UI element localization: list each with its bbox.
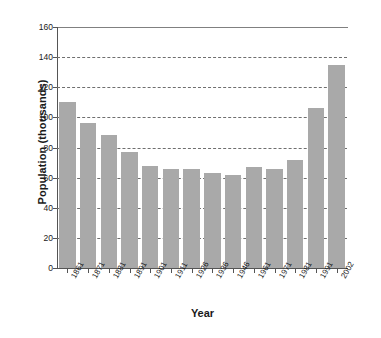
y-axis-tick-label: 100: [13, 113, 53, 122]
gridline: [57, 87, 347, 88]
y-axis-tick-label: 80: [13, 144, 53, 153]
y-axis-tick-label: 0: [13, 264, 53, 273]
y-axis-tick-label: 160: [13, 23, 53, 32]
bar: [308, 108, 325, 268]
bar: [204, 173, 221, 268]
x-axis-tick: [109, 269, 110, 273]
y-axis-tick: [53, 27, 57, 28]
y-axis-tick: [53, 87, 57, 88]
bar: [59, 102, 76, 268]
x-axis-tick: [192, 269, 193, 273]
bar: [246, 167, 263, 268]
bar: [266, 169, 283, 268]
x-axis-title: Year: [0, 307, 381, 319]
y-axis-tick: [53, 117, 57, 118]
y-axis-tick-label: 20: [13, 234, 53, 243]
y-axis-tick-label: 60: [13, 174, 53, 183]
y-axis-tick-label: 40: [13, 204, 53, 213]
x-axis-tick: [254, 269, 255, 273]
y-axis-tick: [53, 238, 57, 239]
bar: [101, 135, 118, 268]
gridline: [57, 117, 347, 118]
y-axis-tick-label: 120: [13, 83, 53, 92]
y-axis-tick-labels: 020406080100120140160: [9, 27, 53, 268]
bar: [142, 166, 159, 268]
x-axis-tick: [67, 269, 68, 273]
x-axis-tick: [295, 269, 296, 273]
bar: [225, 175, 242, 268]
y-axis-tick: [53, 57, 57, 58]
x-axis-tick: [337, 269, 338, 273]
x-axis-tick: [212, 269, 213, 273]
bar: [287, 160, 304, 268]
x-axis-tick: [233, 269, 234, 273]
y-axis-tick: [53, 148, 57, 149]
y-axis-tick-label: 140: [13, 53, 53, 62]
y-axis-tick: [53, 208, 57, 209]
y-axis-tick: [53, 178, 57, 179]
x-axis-tick: [130, 269, 131, 273]
x-axis-tick: [88, 269, 89, 273]
plot-area: [57, 27, 347, 268]
bar: [121, 152, 138, 268]
x-axis-title-text: Year: [191, 307, 214, 319]
gridline: [57, 57, 347, 58]
bar-chart: Population (thousands) 02040608010012014…: [0, 0, 381, 338]
bar: [183, 169, 200, 268]
y-axis-tick: [53, 268, 57, 269]
x-axis-tick: [316, 269, 317, 273]
x-axis-tick: [171, 269, 172, 273]
x-axis-tick: [150, 269, 151, 273]
bar: [163, 169, 180, 268]
bar: [328, 65, 345, 268]
x-axis-tick: [275, 269, 276, 273]
bar: [80, 123, 97, 268]
